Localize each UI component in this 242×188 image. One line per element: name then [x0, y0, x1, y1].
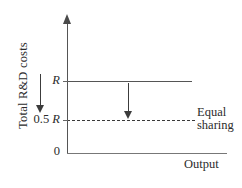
y-axis-line [67, 22, 68, 154]
x-axis-line [67, 153, 227, 154]
x-axis-label: Output [184, 157, 219, 172]
rd-cost-sharing-chart: R 0.5 R 0 Total R&D costs Output Equal s… [0, 0, 242, 188]
series-line-r [67, 81, 192, 82]
y-tick-label-r: R [28, 73, 60, 88]
y-tick-label-half-symbol: R [52, 112, 60, 126]
y-tick-label-half-number: 0.5 [34, 112, 50, 126]
series-line-equal-sharing [67, 120, 195, 121]
y-axis-label: Total R&D costs [16, 22, 31, 150]
y-tick-r [63, 81, 68, 82]
arrow-head [124, 111, 132, 119]
y-tick-label-zero: 0 [40, 144, 60, 159]
legend-equal-sharing: Equal sharing [197, 106, 234, 132]
arrow-down-icon-mid [124, 83, 132, 120]
arrow-up-icon [63, 14, 71, 24]
arrow-shaft [128, 83, 129, 113]
legend-line-2: sharing [197, 119, 234, 132]
y-tick-half-r [63, 120, 68, 121]
